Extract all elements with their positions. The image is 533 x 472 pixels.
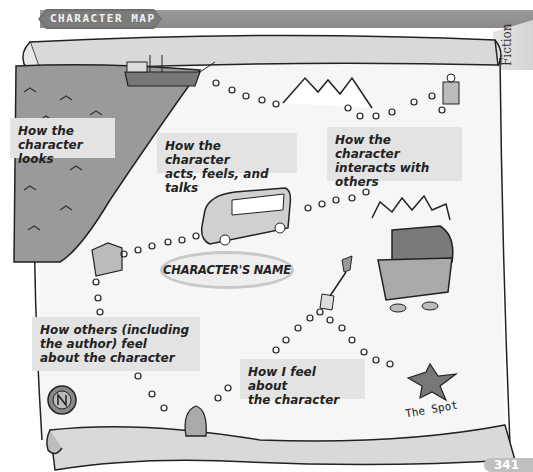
building-icon (92, 243, 122, 276)
label-character-acts: How the characteracts, feels, and talks (157, 133, 297, 173)
label-character-looks: How thecharacter looks (10, 118, 115, 158)
compass-icon (48, 386, 76, 414)
page-number: 341 (494, 458, 519, 472)
character-name-label: CHARACTER'S NAME (163, 263, 291, 277)
character-name-oval: CHARACTER'S NAME (160, 251, 294, 289)
label-i-feel: How I feel aboutthe character (240, 359, 365, 399)
label-character-interacts: How the characterinteracts withothers (327, 127, 462, 181)
label-others-feel: How others (includingthe author) feelabo… (32, 317, 200, 371)
